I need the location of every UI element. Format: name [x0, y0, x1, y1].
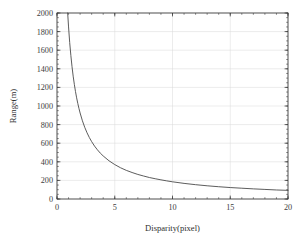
y-axis-title: Range(m): [8, 89, 18, 124]
x-tick-label: 20: [284, 203, 292, 212]
x-axis-title: Disparity(pixel): [145, 223, 200, 233]
y-tick-label: 2000: [37, 9, 53, 18]
x-tick-label: 15: [226, 203, 234, 212]
y-tick-label: 0: [49, 195, 53, 204]
range-disparity-chart: 0200400600800100012001400160018002000 05…: [0, 0, 305, 242]
y-tick-label: 400: [41, 158, 53, 167]
y-tick-label: 1800: [37, 28, 53, 37]
y-tick-label: 1000: [37, 102, 53, 111]
y-tick-label: 600: [41, 139, 53, 148]
x-tick-label: 5: [113, 203, 117, 212]
y-tick-label: 1200: [37, 83, 53, 92]
x-tick-label: 10: [168, 203, 176, 212]
chart-figure: 0200400600800100012001400160018002000 05…: [0, 0, 305, 242]
x-tick-label: 0: [55, 203, 59, 212]
y-tick-label: 200: [41, 176, 53, 185]
y-tick-label: 800: [41, 121, 53, 130]
y-tick-label: 1400: [37, 65, 53, 74]
y-tick-label: 1600: [37, 46, 53, 55]
